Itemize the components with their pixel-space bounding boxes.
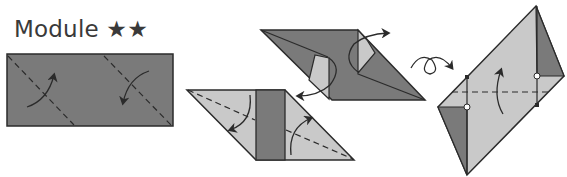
step3-parallelogram [187,90,354,160]
origami-diagram [0,0,567,177]
step4-parallelogram [438,6,564,175]
step1-rectangle [7,54,173,126]
turn-over-icon [411,57,452,74]
